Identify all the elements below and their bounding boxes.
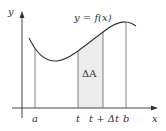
y-axis-label: y	[7, 6, 14, 17]
x-axis-arrow-icon	[151, 106, 158, 111]
y-axis-arrow-icon	[20, 11, 25, 18]
tick-label-t-plus-dt: t + Δt	[89, 113, 120, 124]
tick-label-t: t	[76, 113, 81, 124]
curve-label: y = f(x)	[73, 12, 112, 23]
region-label: ΔA	[82, 68, 97, 79]
tick-label-a: a	[32, 113, 38, 124]
x-axis-label: x	[152, 113, 158, 124]
tick-label-b: b	[123, 113, 129, 124]
area-diagram: y x y = f(x) a t t + Δt b ΔA	[0, 0, 166, 131]
